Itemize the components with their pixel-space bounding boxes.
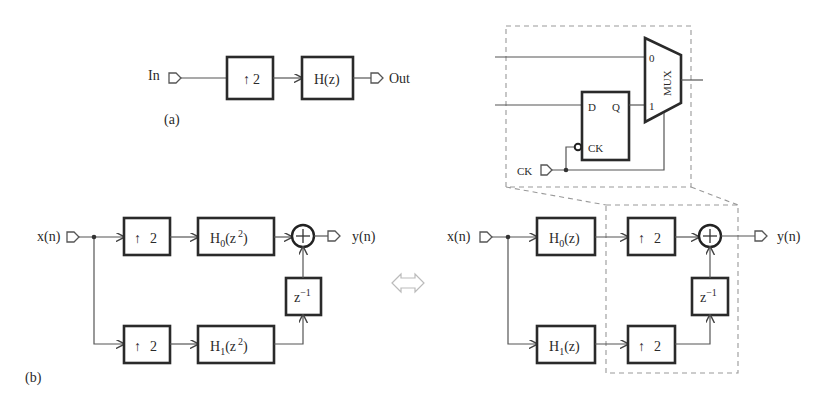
svg-text:2: 2 [150,339,157,354]
upsampler-top: ↑ 2 [124,218,170,255]
upsampler-top: ↑ 2 [628,218,675,255]
svg-text:2: 2 [253,72,260,87]
svg-text:2: 2 [654,231,661,246]
filter-h0-z: H0(z) [537,218,595,255]
clock-input-label: CK [517,165,532,177]
filter-block-h: H(z) [302,57,353,99]
svg-text:CK: CK [588,142,603,154]
equivalence-arrow-icon [392,274,424,292]
figure-a-label: (a) [164,112,180,128]
output-label-out: Out [389,71,410,86]
up-arrow-icon: ↑ [134,231,141,246]
output-connector-icon [755,231,767,241]
svg-text:D: D [588,101,596,113]
adder [699,225,721,247]
up-arrow-icon: ↑ [638,339,645,354]
svg-text:2: 2 [150,231,157,246]
upsampler-bottom: ↑ 2 [628,326,675,363]
filter-h1-z: H1(z) [537,326,595,363]
multiplexer: 0 1 MUX [645,38,681,122]
d-flipflop: D Q CK [575,92,629,160]
svg-text:H0(z2): H0(z2) [210,228,248,249]
input-label-xn: x(n) [37,229,61,245]
mux-detail: D Q CK 0 1 MUX CK [495,26,738,205]
delay-block: z−1 [286,278,321,315]
output-label-yn: y(n) [352,229,376,245]
input-label-in: In [148,68,160,83]
svg-text:Q: Q [612,101,620,113]
figure-a: In ↑ 2 H(z) Out (a) [148,57,410,128]
svg-text:1: 1 [649,100,655,112]
junction-dot [564,168,569,173]
output-label-yn: y(n) [777,229,801,245]
upsampler-block: ↑ 2 [227,57,273,99]
input-connector-icon [480,232,492,242]
clock-connector-icon [541,165,552,175]
upsampler-bottom: ↑ 2 [124,326,170,363]
figure-b-right: x(n) H0(z) ↑ 2 y(n) z−1 [447,205,801,373]
output-connector-icon [371,73,383,83]
svg-text:H1(z2): H1(z2) [210,336,248,357]
input-label-xn: x(n) [447,229,471,245]
output-connector-icon [328,231,340,241]
svg-text:2: 2 [654,339,661,354]
junction-dot [92,235,97,240]
svg-text:H(z): H(z) [314,72,340,88]
input-connector-icon [169,73,181,83]
wire-clock-ff [566,147,574,170]
delay-block: z−1 [692,278,728,315]
mux-label: MUX [661,70,673,96]
up-arrow-icon: ↑ [243,72,250,87]
figure-b-label: (b) [25,370,42,386]
filter-h1-z2: H1(z2) [198,326,274,363]
junction-dot [506,235,511,240]
up-arrow-icon: ↑ [638,231,645,246]
svg-text:0: 0 [649,52,655,64]
adder [292,225,314,247]
figure-b-left: x(n) ↑ 2 H0(z2) y(n) [25,218,376,386]
up-arrow-icon: ↑ [134,339,141,354]
inversion-bubble-icon [575,144,582,151]
filter-h0-z2: H0(z2) [198,218,274,255]
polyphase-interpolator-diagram: In ↑ 2 H(z) Out (a) D Q CK [0,0,825,401]
input-connector-icon [67,232,79,242]
